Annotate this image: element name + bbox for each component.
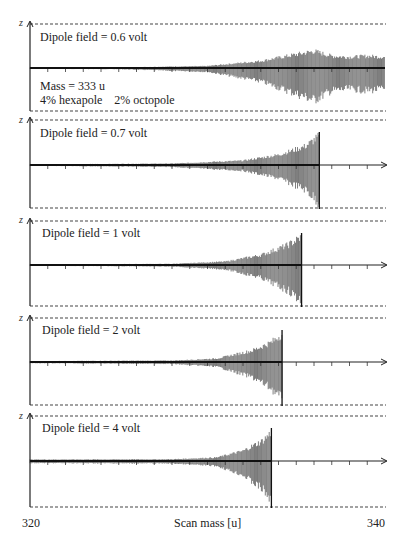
panel1-note-multipoles: 4% hexapole 2% octopole [40, 93, 175, 107]
x-min-label: 320 [22, 516, 40, 531]
panel-label-5: Dipole field = 4 volt [42, 421, 140, 435]
x-max-label: 340 [367, 516, 385, 531]
z-axis-label-4: z [19, 312, 23, 323]
ion-trajectory-trace [30, 235, 301, 303]
x-axis-title: Scan mass [u] [174, 516, 241, 531]
panel1-note-multipoles-text: 4% hexapole 2% octopole [40, 93, 175, 107]
panel-label-1: Dipole field = 0.6 volt [40, 30, 147, 44]
z-axis-label-1: z [19, 17, 23, 28]
z-axis-label-2: z [19, 114, 23, 125]
ion-trajectory-trace [30, 335, 282, 398]
panel-label-4: Dipole field = 2 volt [42, 323, 140, 337]
z-axis-label-5: z [19, 410, 23, 421]
ion-trajectory-trace [30, 432, 271, 502]
z-axis-label-3: z [19, 214, 23, 225]
ion-trajectory-trace [30, 133, 319, 207]
panel1-note-mass: Mass = 333 u [40, 79, 105, 93]
panel-label-2: Dipole field = 0.7 volt [40, 126, 147, 140]
panel-label-3: Dipole field = 1 volt [42, 226, 140, 240]
